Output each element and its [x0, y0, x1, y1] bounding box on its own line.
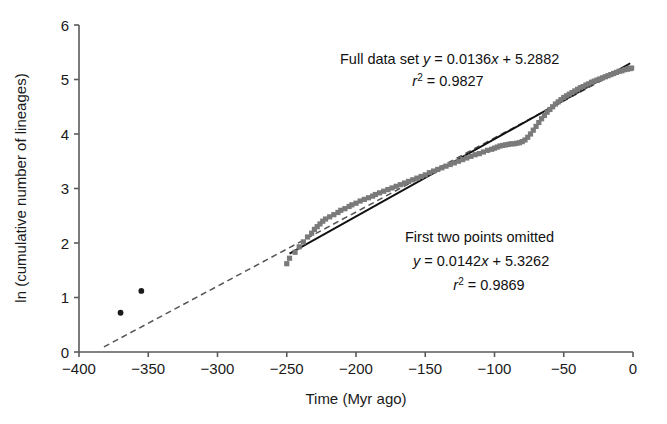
- data-point-square: [301, 239, 306, 244]
- x-tick-label--300: −300: [201, 360, 235, 377]
- x-tick-label--250: −250: [270, 360, 304, 377]
- annotation-omitted-title: First two points omitted: [405, 229, 554, 245]
- y-axis-title: ln (cumulative number of lineages): [12, 73, 29, 302]
- data-point-square: [284, 261, 289, 266]
- x-tick-label--150: −150: [408, 360, 442, 377]
- annot-fd-prefix: Full data set: [340, 51, 423, 67]
- annot-fd-intercept: + 5.2882: [498, 51, 559, 67]
- x-tick-label--350: −350: [131, 360, 165, 377]
- data-point-square: [287, 256, 292, 261]
- annot-ft-intercept: + 5.3262: [488, 253, 549, 269]
- data-point-square: [292, 250, 297, 255]
- data-series-first-two-points: [118, 288, 145, 316]
- x-tick-label--200: −200: [339, 360, 373, 377]
- y-tick-label-1: 1: [61, 289, 69, 306]
- annotation-omitted-equation: y = 0.0142x + 5.3262: [412, 253, 549, 269]
- data-point-square: [629, 65, 634, 70]
- x-tick-label--100: −100: [478, 360, 512, 377]
- x-tick-label-0: 0: [629, 360, 637, 377]
- y-axis-tick-labels: 0123456: [61, 17, 69, 361]
- annotation-full-data-set: Full data set y = 0.0136x + 5.2882 r2 = …: [340, 51, 559, 89]
- y-tick-label-0: 0: [61, 344, 69, 361]
- annotation-full-data-set-line1: Full data set y = 0.0136x + 5.2882: [340, 51, 559, 67]
- annotation-omitted-r2: r2 = 0.9869: [453, 276, 524, 293]
- annot-fd-r2-value: = 0.9827: [423, 73, 484, 89]
- x-tick-label--400: −400: [62, 360, 96, 377]
- figure-container: 0123456 −400−350−300−250−200−150−100−500…: [0, 0, 667, 424]
- y-tick-label-3: 3: [61, 180, 69, 197]
- data-point-circle: [138, 288, 144, 294]
- axes: [74, 25, 633, 357]
- annotation-full-data-set-r2: r2 = 0.9827: [412, 72, 483, 89]
- x-axis-tick-labels: −400−350−300−250−200−150−100−500: [62, 360, 637, 377]
- y-tick-label-2: 2: [61, 235, 69, 252]
- x-tick-label--50: −50: [551, 360, 576, 377]
- lineage-through-time-chart: 0123456 −400−350−300−250−200−150−100−500…: [0, 0, 667, 424]
- data-point-circle: [118, 310, 124, 316]
- data-point-square: [297, 244, 302, 249]
- annot-fd-equation: = 0.0136: [430, 51, 491, 67]
- annotation-first-two-omitted: First two points omitted y = 0.0142x + 5…: [405, 229, 554, 293]
- annot-ft-equation: = 0.0142: [420, 253, 481, 269]
- y-tick-label-6: 6: [61, 17, 69, 34]
- x-axis-title: Time (Myr ago): [305, 390, 406, 407]
- y-tick-label-4: 4: [61, 126, 69, 143]
- annot-ft-r2-value: = 0.9869: [464, 277, 525, 293]
- y-tick-label-5: 5: [61, 71, 69, 88]
